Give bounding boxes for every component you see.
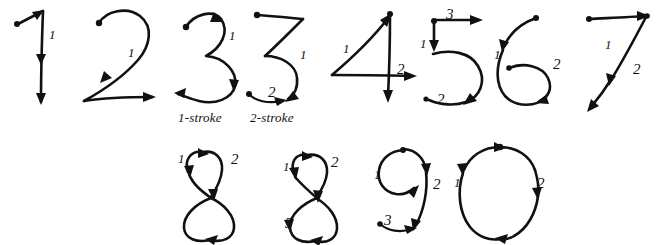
glyph-digit-1	[14, 10, 46, 105]
stroke-cross-left	[295, 177, 317, 198]
glyph-digit-5	[423, 15, 483, 105]
stroke-lower-right	[315, 198, 337, 242]
stroke-label-digit-8a-2: 2	[231, 152, 239, 167]
stroke-order-figure: 1 1 1 1 2 1 2 1 2 3 1 2 1 2 1 2 1 2 3 1 …	[0, 0, 660, 245]
stroke-label-digit-7-2: 2	[633, 62, 641, 77]
stroke-1-lower-left	[460, 173, 500, 240]
stroke-label-digit-9-2: 2	[433, 177, 441, 192]
handwriting-stroke-canvas	[0, 0, 660, 245]
stroke-1-base	[84, 97, 152, 101]
stroke-2-lower-right	[500, 196, 538, 239]
glyph-digit-3-one-stroke	[174, 12, 239, 102]
stroke-2-bowl	[509, 65, 550, 101]
stroke-1-curve	[504, 18, 536, 46]
arrow-head-end	[143, 92, 156, 102]
stroke-2-vertical	[388, 16, 390, 97]
arrow-head-mid	[100, 71, 112, 83]
glyph-digit-8-two-stroke	[184, 148, 234, 245]
arrow-head-stroke-1-end	[429, 40, 439, 52]
stroke-1-top-bar	[589, 16, 645, 19]
stroke-2-descender	[416, 172, 427, 225]
glyph-digit-0	[457, 142, 542, 244]
stroke-2-upper-right	[500, 147, 535, 170]
stroke-label-digit-0-2: 2	[537, 176, 545, 191]
stroke-label-digit-6-1: 1	[494, 48, 501, 61]
stroke-label-digit-0-1: 1	[454, 176, 461, 189]
stroke-1-diagonal	[265, 19, 303, 56]
stroke-label-digit-4-1: 1	[343, 42, 350, 55]
arrow-head-stroke-1-end	[407, 185, 419, 198]
stroke-label-digit-9-3: 3	[384, 213, 392, 228]
stroke-label-digit-6-2: 2	[553, 57, 561, 72]
stroke-1-top	[257, 15, 303, 19]
stroke-label-digit-9-1: 1	[374, 168, 381, 181]
arrow-head-mid	[36, 54, 46, 65]
stroke-label-digit-8b-3: 3	[285, 216, 293, 231]
arrow-head-stroke-2-end	[383, 90, 393, 103]
stroke-1-lower-loop	[498, 50, 546, 105]
stroke-label-digit-5-1: 1	[420, 37, 427, 50]
glyph-digit-4	[332, 11, 417, 103]
arrow-head-stroke-2-end	[495, 234, 508, 244]
stroke-label-digit-8a-1: 1	[178, 152, 185, 165]
stroke-2-bottom	[429, 100, 466, 104]
arrow-head-stroke-3-end	[470, 15, 483, 25]
stroke-1-diagonal-up	[332, 17, 389, 75]
arrow-head-stroke-1-end	[285, 91, 299, 102]
stroke-label-digit-4-2: 2	[397, 62, 405, 77]
caption-two-stroke: 2-stroke	[250, 110, 294, 126]
stroke-1-lower-left	[184, 174, 211, 241]
stroke-label-digit-3b-2: 2	[268, 85, 276, 100]
stroke-label-digit-3a-1: 1	[229, 29, 236, 42]
stroke-1-tail	[178, 86, 235, 102]
stroke-label-digit-3b-1: 1	[300, 48, 307, 61]
stroke-label-digit-8b-1: 1	[283, 160, 290, 173]
stroke-label-digit-5-2: 2	[437, 92, 445, 107]
stroke-label-digit-1-1: 1	[49, 28, 56, 41]
stroke-1-curve	[84, 11, 149, 101]
stroke-1-loop	[379, 150, 414, 194]
stroke-2-lower-right	[210, 198, 234, 241]
stroke-2-start-dot	[423, 96, 428, 101]
arrow-head-end	[36, 93, 46, 105]
arrow-head-apex	[198, 148, 209, 158]
stroke-3-lower-left	[290, 198, 317, 226]
stroke-label-digit-7-1: 1	[605, 38, 612, 51]
glyph-digit-2	[84, 11, 156, 102]
arrow-head-crossbar-end	[404, 71, 417, 81]
caption-one-stroke: 1-stroke	[178, 110, 222, 126]
stroke-label-digit-2-1: 1	[128, 46, 135, 59]
stroke-label-digit-5-3: 3	[446, 7, 454, 22]
stroke-label-digit-8b-2: 2	[331, 155, 339, 170]
glyph-digit-6	[498, 15, 550, 105]
arrow-head-end	[174, 88, 186, 98]
